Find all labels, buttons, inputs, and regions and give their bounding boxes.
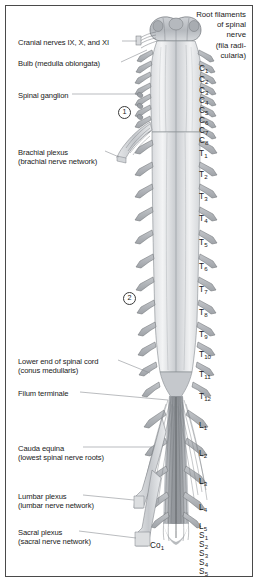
segment-label-t11: T11	[199, 370, 210, 379]
segment-label-t7: T7	[199, 285, 207, 294]
label-conus-medullaris: Lower end of spinal cord (conus medullar…	[18, 357, 98, 376]
segment-letter: S	[199, 558, 204, 567]
segment-index: 3	[204, 195, 207, 202]
segment-index: 3	[204, 480, 207, 487]
conus-medullaris	[160, 372, 192, 397]
segment-index: 1	[204, 424, 207, 431]
segment-label-s1: S1	[199, 531, 208, 540]
segment-label-c4: C4	[199, 96, 208, 105]
label-bulb-line-0: Bulb (medulla oblongata)	[18, 59, 100, 68]
segment-label-t1: T1	[199, 149, 207, 158]
label-sacral-plexus-line-0: Sacral plexus	[18, 528, 91, 537]
segment-index: 10	[204, 353, 211, 360]
segment-letter: S	[199, 531, 204, 540]
brachial-plexus	[117, 122, 152, 163]
segment-letter: L	[199, 421, 204, 430]
segment-index: 1	[205, 67, 208, 74]
segment-label-l4: L4	[199, 503, 207, 512]
segment-label-t4: T4	[199, 214, 207, 223]
label-bulb: Bulb (medulla oblongata)	[18, 59, 100, 68]
segment-label-t5: T5	[199, 238, 207, 247]
segment-index: 5	[204, 241, 207, 248]
segment-index: 7	[205, 129, 208, 136]
header-root-filaments: Root filaments of spinal nerve (fila rad…	[150, 10, 246, 61]
segment-letter: S	[199, 549, 204, 558]
segment-label-c5: C5	[199, 106, 208, 115]
label-lumbar-plexus-line-0: Lumbar plexus	[18, 492, 94, 501]
label-lumbar-plexus: Lumbar plexus (lumbar nerve network)	[18, 492, 94, 511]
label-filum-terminale: Filum terminale	[18, 389, 68, 398]
segment-index: 7	[204, 288, 207, 295]
segment-index: 11	[204, 373, 210, 380]
label-conus-medullaris-line-1: (conus medullaris)	[18, 366, 98, 375]
label-brachial-plexus-line-0: Brachial plexus	[18, 148, 97, 157]
segment-label-s4: S4	[199, 558, 208, 567]
segment-index: 2	[204, 173, 207, 180]
segment-label-s3: S3	[199, 549, 208, 558]
segment-letter: L	[199, 477, 204, 486]
segment-label-l2: L2	[199, 449, 207, 458]
segment-index: 8	[204, 311, 207, 318]
segment-index: 12	[204, 395, 211, 402]
label-cauda-equina-line-1: (lowest spinal nerve roots)	[18, 453, 104, 462]
region-marker-1: 1	[118, 106, 131, 119]
label-spinal-ganglion: Spinal ganglion	[18, 91, 68, 100]
segment-label-t6: T6	[199, 262, 207, 271]
header-line-1: of spinal	[150, 20, 246, 30]
label-sacral-plexus-line-1: (sacral nerve network)	[18, 537, 91, 546]
segment-label-co1: Co1	[150, 541, 164, 550]
header-line-0: Root filaments	[150, 10, 246, 20]
region-marker-2: 2	[123, 292, 136, 305]
segment-index: 5	[205, 570, 208, 577]
segment-letter: Co	[150, 541, 160, 550]
segment-label-l3: L3	[199, 477, 207, 486]
label-cauda-equina: Cauda equina (lowest spinal nerve roots)	[18, 444, 104, 463]
label-lumbar-plexus-line-1: (lumbar nerve network)	[18, 501, 94, 510]
segment-index: 5	[205, 109, 208, 116]
label-spinal-ganglion-line-0: Spinal ganglion	[18, 91, 68, 100]
segment-index: 9	[204, 333, 207, 340]
segment-letter: S	[199, 540, 204, 549]
label-cranial-nerves: Cranial nerves IX, X, and XI	[18, 38, 109, 47]
segment-index: 1	[204, 152, 207, 159]
segment-index: 6	[204, 265, 207, 272]
segment-label-c7: C7	[199, 126, 208, 135]
segment-label-l1: L1	[199, 421, 207, 430]
segment-label-t8: T8	[199, 308, 207, 317]
label-cauda-equina-line-0: Cauda equina	[18, 444, 104, 453]
segment-label-s2: S2	[199, 540, 208, 549]
segment-label-t9: T9	[199, 330, 207, 339]
segment-letter: L	[199, 522, 204, 531]
spinal-ganglion-nodes	[136, 92, 143, 121]
segment-letter: L	[199, 449, 204, 458]
header-line-2: nerve	[150, 30, 246, 40]
segment-label-l5: L5	[199, 522, 207, 531]
segment-label-c6: C6	[199, 116, 208, 125]
segment-index: 3	[205, 89, 208, 96]
label-cranial-nerves-line-0: Cranial nerves IX, X, and XI	[18, 38, 109, 47]
segment-label-c1: C1	[199, 64, 208, 73]
label-brachial-plexus-line-1: (brachial nerve network)	[18, 157, 97, 166]
segment-index: 8	[205, 139, 208, 146]
label-brachial-plexus: Brachial plexus (brachial nerve network)	[18, 148, 97, 167]
label-conus-medullaris-line-0: Lower end of spinal cord	[18, 357, 98, 366]
segment-letter: S	[199, 567, 204, 576]
segment-label-c8: C8	[199, 136, 208, 145]
header-line-4: cularia)	[150, 51, 246, 61]
segment-index: 4	[205, 99, 208, 106]
label-filum-terminale-line-0: Filum terminale	[18, 389, 68, 398]
segment-label-c3: C3	[199, 86, 208, 95]
segment-index: 1	[161, 544, 164, 551]
segment-label-c2: C2	[199, 75, 208, 84]
segment-label-s5: S5	[199, 567, 208, 576]
segment-label-t3: T3	[199, 192, 207, 201]
segment-label-t2: T2	[199, 170, 207, 179]
label-sacral-plexus: Sacral plexus (sacral nerve network)	[18, 528, 91, 547]
segment-label-t12: T12	[199, 392, 211, 401]
segment-letter: L	[199, 503, 204, 512]
segment-label-t10: T10	[199, 350, 211, 359]
segment-index: 6	[205, 119, 208, 126]
header-line-3: (fila radi-	[150, 41, 246, 51]
spinal-cord-figure: Root filaments of spinal nerve (fila rad…	[0, 0, 260, 584]
segment-index: 2	[205, 78, 208, 85]
